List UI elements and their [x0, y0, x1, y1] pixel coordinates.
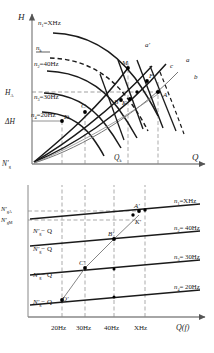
point-label-A-prime: A' — [133, 202, 140, 209]
label-b: b — [194, 73, 198, 81]
upper-chart: H Q HA ΔH N′g Qk n1=XHz nk n2=40Hz n3=30… — [1, 12, 205, 169]
point-label-B: B — [114, 98, 119, 106]
point-label-B-prime: B' — [108, 230, 114, 237]
upper-y-axis-label: H — [17, 12, 25, 22]
tick-ha: HA — [4, 88, 13, 98]
point-x2 — [113, 268, 116, 271]
lower-tick-xhz: XHz — [134, 324, 147, 332]
point-C — [83, 110, 87, 114]
tick-nga: N'gA — [0, 205, 12, 214]
lower-operating-curve — [62, 215, 139, 300]
point-label-A: A — [162, 91, 168, 99]
lower-points — [60, 208, 147, 302]
upper-origin-label: N′g — [1, 159, 12, 169]
point-A-prime — [137, 209, 141, 213]
point-label-C-prime: C' — [79, 259, 86, 266]
op-line-4 — [100, 74, 124, 140]
point-B-prime — [112, 237, 116, 241]
point-x3 — [113, 296, 116, 299]
point-A — [156, 90, 160, 94]
point-label-K: K — [121, 99, 127, 107]
lower-line-label-2: N'g− Q — [32, 245, 52, 254]
point-label-M: M — [121, 59, 129, 67]
point-x1 — [143, 208, 146, 211]
op-line-1 — [118, 60, 143, 129]
point-label-K-prime: K' — [134, 218, 142, 225]
label-a-prime: a' — [145, 41, 151, 49]
lower-line-label-3: N'g− Q — [32, 271, 52, 280]
curve-label-n2: n2=40Hz — [34, 60, 59, 69]
lower-chart: N'gA N'gM N'g− Q N'g− Q N'g− Q N'g− Q n1… — [0, 185, 205, 332]
curve-label-n4: n4=20Hz — [31, 111, 56, 120]
op-line-dashed — [160, 72, 184, 134]
diagram-canvas: H Q HA ΔH N′g Qk n1=XHz nk n2=40Hz n3=30… — [0, 0, 214, 353]
curve-label-n1: n1=XHz — [38, 19, 61, 28]
lower-tick-30hz: 30Hz — [76, 324, 91, 332]
lower-line-label-4: N'g− Q — [32, 298, 52, 307]
curve-label-nk: nk — [36, 44, 43, 53]
lower-tick-40hz: 40Hz — [104, 324, 119, 332]
point-C-prime — [83, 266, 87, 270]
tick-ngm: N'gM — [0, 216, 13, 225]
point-K — [128, 97, 132, 101]
point-label-D-prime: D' — [61, 295, 69, 302]
upper-x-axis-label: Q — [192, 152, 199, 162]
lower-line-3 — [30, 260, 200, 275]
lower-x-axis-label: Q(f) — [176, 323, 190, 332]
point-label-C: C — [81, 102, 86, 110]
label-c: c — [170, 62, 174, 70]
lower-line-1 — [30, 204, 200, 219]
tick-delta-h: ΔH — [4, 117, 15, 126]
upper-points — [60, 66, 160, 123]
point-label-D: D — [63, 113, 69, 121]
lower-line-label-1: N'g− Q — [32, 227, 52, 236]
point-K-prime — [131, 213, 134, 216]
tick-qk: Qk — [114, 153, 122, 163]
point-mid — [135, 90, 138, 93]
lower-tick-20hz: 20Hz — [51, 324, 66, 332]
label-a: a — [186, 56, 190, 64]
curve-label-n3: n3=30Hz — [34, 93, 59, 102]
point-label-F: F — [148, 72, 154, 80]
